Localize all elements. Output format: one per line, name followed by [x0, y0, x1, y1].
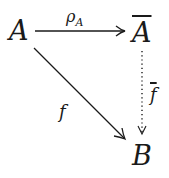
arrow-f — [34, 48, 125, 139]
node-B: B — [132, 142, 152, 169]
label-rho: ρA — [66, 9, 83, 28]
label-f: f — [59, 103, 66, 121]
label-rho-main: ρ — [66, 7, 75, 26]
label-f-bar: f — [150, 86, 157, 104]
arrow-fbar — [138, 51, 146, 134]
node-A-bar: A — [132, 19, 152, 46]
node-A: A — [9, 17, 29, 44]
commutative-diagram: A A B ρA f f — [0, 0, 169, 178]
label-rho-sub: A — [75, 16, 83, 29]
